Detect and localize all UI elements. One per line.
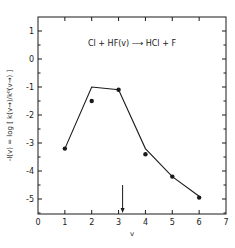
y-tick-label: 1 <box>29 27 34 36</box>
y-tick-label: 0 <box>29 55 34 64</box>
y-tick-labels: 10-1-2-3-4-5 <box>26 27 34 204</box>
x-tick-labels: 01234567 <box>35 218 228 227</box>
x-tick-label: 0 <box>35 218 40 227</box>
threshold-arrow <box>121 185 125 213</box>
y-tick-label: -4 <box>26 167 34 176</box>
x-tick-label: 3 <box>116 218 121 227</box>
data-point <box>197 195 201 199</box>
calculated-series-line <box>65 87 199 196</box>
x-tick-label: 5 <box>170 218 175 227</box>
y-tick-label: -5 <box>26 195 34 204</box>
y-tick-label: -2 <box>26 111 34 120</box>
y-axis-label: -I(v) = log [ k(v→)/k⁰(v→) ] <box>6 69 14 161</box>
chart: 01234567 10-1-2-3-4-5 Cl + HF(v) ⟶ HCl +… <box>0 0 235 248</box>
data-point <box>143 152 147 156</box>
x-tick-label: 1 <box>62 218 67 227</box>
arrow-head-icon <box>121 208 125 213</box>
reaction-annotation: Cl + HF(v) ⟶ HCl + F <box>88 39 176 48</box>
x-tick-label: 6 <box>197 218 202 227</box>
x-tick-label: 7 <box>223 218 228 227</box>
data-point <box>90 99 94 103</box>
data-point <box>63 146 67 150</box>
x-tick-label: 2 <box>89 218 94 227</box>
x-axis-label: v <box>130 230 134 238</box>
y-tick-label: -3 <box>26 139 34 148</box>
y-tick-label: -1 <box>26 83 34 92</box>
x-tick-label: 4 <box>143 218 148 227</box>
data-point <box>170 174 174 178</box>
data-point <box>116 88 120 92</box>
